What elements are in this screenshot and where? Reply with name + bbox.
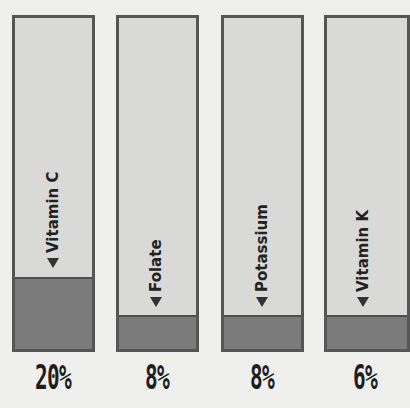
bar-fill-vitamin-c	[15, 277, 92, 349]
pointer-arrow-icon	[150, 297, 162, 307]
bar-vitamin-c: Vitamin C	[12, 15, 95, 352]
bar-label-text: Vitamin C	[44, 172, 62, 253]
pointer-arrow-icon	[47, 258, 59, 268]
value-label-potassium: 8%	[237, 358, 288, 396]
bar-vitamin-k: Vitamin K	[324, 15, 410, 352]
bar-folate: Folate	[116, 15, 199, 352]
bar-potassium: Potassium	[221, 15, 304, 352]
value-label-vitamin-k: 6%	[340, 358, 391, 396]
value-label-vitamin-c: 20%	[28, 358, 79, 396]
bar-fill-folate	[119, 315, 196, 349]
pointer-arrow-icon	[357, 297, 369, 307]
bar-fill-potassium	[224, 315, 301, 349]
bar-label-text: Potassium	[253, 204, 271, 292]
value-label-folate: 8%	[132, 358, 183, 396]
bar-label-text: Folate	[147, 239, 165, 292]
pointer-arrow-icon	[256, 297, 268, 307]
bar-label-text: Vitamin K	[354, 210, 372, 292]
bar-fill-vitamin-k	[327, 315, 407, 349]
